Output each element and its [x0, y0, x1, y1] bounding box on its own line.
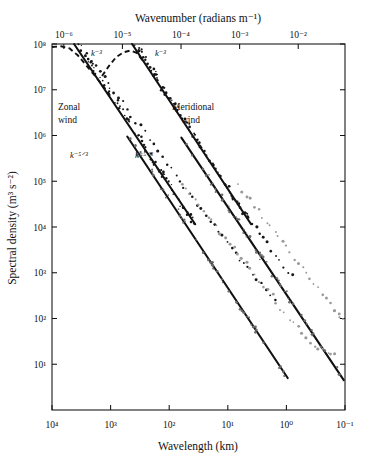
top-tick-label: 10⁻⁴ — [172, 30, 191, 40]
data-point — [262, 286, 265, 289]
top-axis-title: Wavenumber (radians m⁻¹) — [135, 12, 261, 25]
data-point — [317, 286, 319, 288]
data-point — [248, 267, 251, 270]
data-point — [286, 290, 288, 292]
data-point — [109, 88, 111, 90]
data-point — [282, 370, 284, 372]
data-point — [254, 331, 257, 334]
data-point — [108, 90, 110, 92]
data-point — [241, 309, 244, 312]
data-point — [266, 261, 268, 263]
data-point — [138, 47, 140, 49]
data-point — [153, 164, 155, 166]
chart-canvas: Wavenumber (radians m⁻¹) Wavelength (km)… — [0, 0, 369, 458]
slope-label-k3-meridional: k⁻³ — [155, 48, 166, 58]
data-point — [217, 172, 218, 173]
data-point — [311, 329, 313, 331]
data-point — [184, 221, 186, 223]
bottom-tick-label: 10¹ — [222, 420, 235, 430]
data-point — [276, 277, 278, 279]
data-point — [221, 199, 224, 202]
data-point — [145, 56, 147, 58]
data-point — [164, 178, 166, 180]
data-point — [266, 222, 268, 224]
data-point — [152, 173, 154, 175]
data-point — [235, 200, 237, 202]
data-point — [93, 67, 94, 68]
data-point — [137, 134, 139, 136]
data-point — [163, 173, 165, 175]
data-point — [325, 297, 328, 300]
data-point — [183, 218, 185, 220]
data-point — [246, 215, 248, 217]
bottom-tick-label: 10² — [163, 420, 176, 430]
data-point — [329, 353, 332, 356]
slope-label-k53-meridional: k⁻⁵ᐟ³ — [135, 150, 153, 160]
data-point — [333, 309, 336, 312]
top-tick-label: 10⁻⁶ — [55, 30, 73, 40]
data-point — [249, 235, 252, 238]
data-point — [170, 167, 172, 169]
data-point — [193, 222, 195, 224]
data-point — [165, 91, 168, 94]
data-point — [233, 246, 236, 249]
data-point — [262, 341, 264, 343]
data-point — [117, 99, 119, 101]
data-point — [333, 352, 336, 355]
data-point — [182, 207, 183, 208]
data-point — [300, 314, 302, 316]
data-point — [288, 251, 290, 253]
data-point — [284, 291, 286, 293]
data-point — [250, 324, 252, 326]
data-point — [156, 79, 159, 82]
data-point — [178, 198, 179, 199]
data-point — [246, 233, 247, 234]
data-point — [155, 71, 156, 72]
data-point — [205, 174, 208, 177]
data-point — [283, 311, 285, 313]
data-point — [81, 45, 82, 46]
data-point — [134, 132, 136, 134]
data-point — [227, 186, 229, 188]
data-point — [138, 49, 140, 51]
data-point — [112, 92, 115, 95]
data-point — [219, 174, 221, 176]
left-axis-title: Spectral density (m³ s⁻²) — [6, 171, 19, 285]
data-point — [122, 108, 124, 110]
data-point — [176, 175, 178, 177]
data-point — [209, 261, 212, 264]
data-point — [253, 206, 256, 209]
data-point — [258, 233, 260, 235]
data-point — [193, 133, 195, 135]
data-point — [158, 172, 159, 173]
data-point — [152, 174, 155, 177]
data-point — [102, 80, 104, 82]
data-point — [221, 193, 224, 196]
data-point — [99, 70, 102, 73]
data-point — [322, 348, 324, 350]
data-point — [254, 325, 257, 328]
data-point — [205, 214, 208, 217]
data-point — [161, 176, 163, 178]
data-point — [126, 108, 128, 110]
data-point — [243, 262, 245, 264]
data-point — [321, 293, 324, 296]
data-point — [267, 288, 270, 291]
data-point — [134, 44, 136, 46]
data-point — [240, 257, 243, 260]
data-point — [203, 150, 205, 152]
data-point — [156, 149, 159, 152]
data-point — [152, 161, 155, 164]
data-point — [269, 294, 271, 296]
data-point — [258, 208, 261, 211]
data-point — [324, 349, 327, 352]
data-point — [171, 189, 173, 191]
data-point — [255, 225, 258, 228]
data-point — [248, 316, 250, 318]
bottom-tick-label: 10⁻¹ — [336, 420, 354, 430]
data-point — [134, 144, 136, 146]
data-point — [179, 180, 181, 182]
data-point — [214, 188, 216, 190]
data-point — [221, 278, 223, 280]
data-point — [161, 155, 164, 158]
